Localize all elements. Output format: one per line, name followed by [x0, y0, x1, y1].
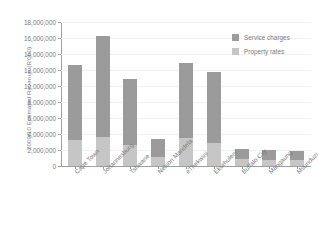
legend-label: Property rates	[244, 48, 284, 55]
gridline	[61, 22, 311, 23]
y-tick-label: 4,000,000	[28, 131, 56, 138]
y-tick-mark	[58, 22, 61, 23]
y-tick-mark	[58, 166, 61, 167]
y-tick-label: 12,000,000	[24, 67, 56, 74]
y-tick-mark	[58, 134, 61, 135]
y-tick-label: 14,000,000	[24, 51, 56, 58]
y-tick-mark	[58, 86, 61, 87]
bar-segment-service-charges	[68, 65, 82, 139]
bar-segment-service-charges	[207, 72, 221, 143]
y-tick-mark	[58, 118, 61, 119]
y-tick-label: 6,000,000	[28, 115, 56, 122]
y-tick-mark	[58, 150, 61, 151]
y-tick-mark	[58, 70, 61, 71]
y-tick-label: 8,000,000	[28, 99, 56, 106]
chart-legend: Service chargesProperty rates	[232, 34, 290, 62]
bar	[96, 36, 110, 166]
bar-segment-service-charges	[96, 36, 110, 138]
bar-segment-service-charges	[179, 63, 193, 138]
bar	[68, 65, 82, 166]
y-tick-label: 18,000,000	[24, 19, 56, 26]
revenue-stacked-bar-chart: 2009/10 Estimated Revenue (R'000) 02,000…	[0, 0, 318, 228]
y-tick-mark	[58, 38, 61, 39]
y-tick-mark	[58, 54, 61, 55]
legend-label: Service charges	[244, 34, 290, 41]
legend-swatch	[232, 34, 239, 41]
y-tick-label: 16,000,000	[24, 35, 56, 42]
legend-item: Service charges	[232, 34, 290, 41]
y-tick-label: 10,000,000	[24, 83, 56, 90]
bar-segment-service-charges	[123, 79, 137, 145]
legend-swatch	[232, 48, 239, 55]
y-tick-label: 0	[52, 163, 56, 170]
legend-item: Property rates	[232, 48, 290, 55]
y-tick-label: 2,000,000	[28, 147, 56, 154]
bar-segment-service-charges	[151, 139, 165, 157]
y-tick-mark	[58, 102, 61, 103]
bar	[207, 72, 221, 166]
